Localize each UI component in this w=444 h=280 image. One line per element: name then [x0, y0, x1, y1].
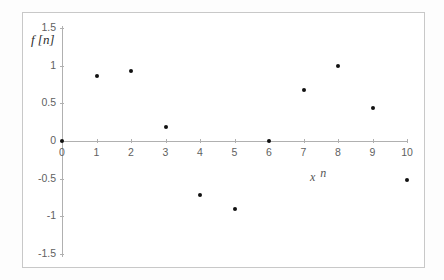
y-axis-title: f [n] — [31, 32, 54, 48]
x-axis-title-main: x — [310, 170, 315, 184]
plot-frame-border — [22, 12, 425, 268]
x-axis-title-sub: n — [320, 166, 326, 180]
x-axis-title: xn — [310, 170, 321, 185]
scatter-chart-figure: 012345678910 1.510.50-0.5-1-1.5 f [n] xn — [0, 0, 444, 280]
